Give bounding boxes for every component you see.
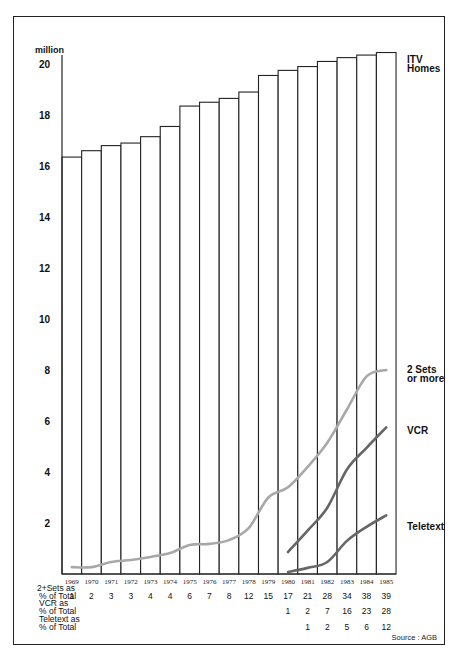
x-tick-label: 1981 <box>301 578 316 586</box>
bar-1972 <box>121 143 141 574</box>
bar-1976 <box>200 102 220 574</box>
x-tick-label: 1984 <box>360 578 375 586</box>
y-tick-label: 14 <box>39 212 51 223</box>
row-value: 7 <box>325 606 330 616</box>
row-value: 28 <box>323 591 333 601</box>
bar-1974 <box>160 126 180 574</box>
row-value: 8 <box>227 591 232 601</box>
x-tick-label: 1979 <box>261 578 276 586</box>
y-tick-label: 12 <box>39 263 51 274</box>
row-value: 4 <box>168 591 173 601</box>
row-value: 6 <box>187 591 192 601</box>
x-tick-label: 1985 <box>379 578 394 586</box>
row-value: 5 <box>345 622 350 632</box>
bar-1980 <box>278 70 298 574</box>
y-axis-unit: million <box>35 45 64 55</box>
x-tick-label: 1980 <box>281 578 296 586</box>
x-tick-label: 1983 <box>340 578 355 586</box>
row-value: 38 <box>362 591 372 601</box>
row-value: 12 <box>244 591 254 601</box>
row-label: % of Total <box>39 622 76 632</box>
row-value: 21 <box>303 591 313 601</box>
bar-1970 <box>82 151 102 574</box>
stats-table: 1969197019711972197319741975197619771978… <box>37 578 437 642</box>
bar-1984 <box>357 55 377 574</box>
x-tick-label: 1978 <box>242 578 257 586</box>
y-tick-label: 16 <box>39 161 51 172</box>
x-tick-label: 1973 <box>143 578 158 586</box>
itv-homes-chart: million2018161412108642 ITVHomes2 Setsor… <box>0 0 459 664</box>
bar-1973 <box>141 137 161 574</box>
row-value: 2 <box>325 622 330 632</box>
series-label: or more <box>407 373 445 384</box>
x-tick-label: 1977 <box>222 578 237 586</box>
y-tick-label: 4 <box>44 467 50 478</box>
row-value: 7 <box>207 591 212 601</box>
x-tick-label: 1975 <box>183 578 198 586</box>
y-tick-label: 18 <box>39 110 51 121</box>
bar-1971 <box>101 146 121 574</box>
y-tick-label: 2 <box>44 518 50 529</box>
y-tick-label: 6 <box>44 416 50 427</box>
row-value: 1 <box>286 606 291 616</box>
x-tick-label: 1976 <box>202 578 217 586</box>
row-value: 3 <box>128 591 133 601</box>
row-value: 17 <box>283 591 293 601</box>
series-label: VCR <box>407 425 429 436</box>
x-tick-label: 1972 <box>124 578 139 586</box>
row-value: 16 <box>342 606 352 616</box>
bars-group <box>62 53 396 574</box>
series-label: Teletext <box>407 521 445 532</box>
row-value: 6 <box>364 622 369 632</box>
series-labels: ITVHomes2 Setsor moreVCRTeletext <box>407 54 445 532</box>
source-note: Source : AGB <box>392 633 437 642</box>
row-value: 34 <box>342 591 352 601</box>
bar-1981 <box>298 67 318 574</box>
x-tick-label: 1974 <box>163 578 178 586</box>
row-value: 4 <box>148 591 153 601</box>
row-value: 15 <box>264 591 274 601</box>
x-tick-label: 1982 <box>320 578 335 586</box>
row-value: 2 <box>89 591 94 601</box>
row-value: 12 <box>381 622 391 632</box>
bar-1969 <box>62 157 82 574</box>
series-label: Homes <box>407 63 441 74</box>
row-value: 1 <box>305 622 310 632</box>
row-value: 2 <box>305 606 310 616</box>
y-tick-label: 10 <box>39 314 51 325</box>
y-tick-label: 20 <box>39 59 51 70</box>
row-value: 39 <box>381 591 391 601</box>
y-tick-label: 8 <box>44 365 50 376</box>
bar-1978 <box>239 92 259 574</box>
bar-1985 <box>376 53 396 574</box>
row-value: 3 <box>109 591 114 601</box>
bar-1975 <box>180 106 200 574</box>
x-tick-label: 1971 <box>104 578 119 586</box>
row-value: 1 <box>69 591 74 601</box>
x-tick-label: 1970 <box>84 578 99 586</box>
row-value: 23 <box>362 606 372 616</box>
bar-1983 <box>337 58 357 574</box>
row-value: 28 <box>381 606 391 616</box>
bar-1977 <box>219 98 239 574</box>
